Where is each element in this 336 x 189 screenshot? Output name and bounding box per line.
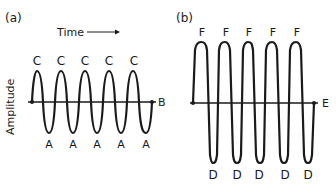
trough-label: A: [93, 138, 101, 151]
peak-label: C: [57, 54, 65, 68]
peak-label: F: [223, 26, 229, 39]
peak-label: C: [130, 54, 138, 68]
wave-diagram: (a) Time Amplitude B C C C C C A A A A A: [0, 0, 336, 189]
panel-a-label: (a): [5, 11, 22, 25]
peak-label: F: [199, 26, 205, 39]
peak-label: C: [33, 54, 41, 68]
trough-label: A: [142, 138, 150, 151]
panel-b: (b) E F F F F F D D D D D: [176, 11, 329, 182]
peak-label: C: [81, 54, 89, 68]
panel-b-label: (b): [176, 11, 193, 25]
trough-label: A: [45, 138, 53, 151]
trough-label: D: [254, 168, 263, 182]
trough-label: D: [280, 168, 289, 182]
time-label: Time: [56, 26, 84, 39]
peak-labels-b: F F F F F: [199, 26, 300, 39]
time-arrow-icon: [87, 30, 120, 35]
trough-label: D: [303, 168, 312, 182]
peak-label: F: [294, 26, 300, 39]
panel-a: (a) Time Amplitude B C C C C C A A A A A: [4, 11, 166, 151]
trough-labels-b: D D D D D: [208, 168, 312, 182]
peak-labels-a: C C C C C: [33, 54, 138, 68]
trough-label: D: [232, 168, 241, 182]
trough-label: A: [117, 138, 125, 151]
trough-label: D: [208, 168, 217, 182]
baseline-label-e: E: [322, 97, 329, 110]
baseline-label-b: B: [158, 96, 166, 109]
peak-label: F: [246, 26, 252, 39]
peak-label: F: [270, 26, 276, 39]
trough-labels-a: A A A A A: [45, 138, 150, 151]
peak-label: C: [105, 54, 113, 68]
amplitude-label: Amplitude: [4, 78, 17, 135]
trough-label: A: [69, 138, 77, 151]
